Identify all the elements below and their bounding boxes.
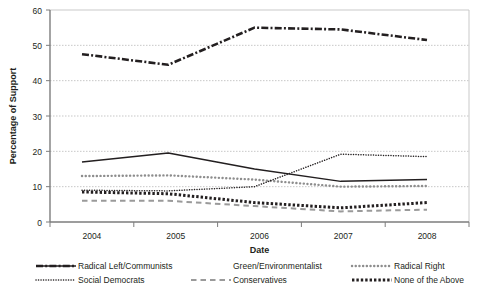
- y-tick-label-30: 30: [33, 112, 43, 122]
- line-chart: 60 50 40 30 20 10 0 2004 2005 2006 2007 …: [0, 0, 479, 290]
- y-tick-label-10: 10: [33, 182, 43, 192]
- legend-item-conservatives: Conservatives: [191, 275, 287, 285]
- x-tick-label-2004: 2004: [82, 231, 101, 241]
- x-tick-label-2005: 2005: [166, 231, 185, 241]
- x-tick-label-2006: 2006: [250, 231, 269, 241]
- x-tick-label-2007: 2007: [334, 231, 353, 241]
- legend-label-radical-left: Radical Left/Communists: [78, 261, 172, 271]
- x-tick-label-2008: 2008: [418, 231, 437, 241]
- y-tick-label-40: 40: [33, 76, 43, 86]
- legend-label-radical-right: Radical Right: [394, 261, 445, 271]
- legend-label-social-democrats: Social Democrats: [78, 275, 145, 285]
- legend-label-green: Green/Environmentalist: [233, 261, 322, 271]
- chart-container: 60 50 40 30 20 10 0 2004 2005 2006 2007 …: [0, 0, 479, 290]
- x-axis-title: Date: [250, 245, 270, 255]
- legend-item-none-above: None of the Above: [352, 275, 464, 285]
- legend-item-social-democrats: Social Democrats: [36, 275, 145, 285]
- x-axis-ticks: [50, 222, 469, 227]
- y-tick-label-60: 60: [33, 6, 43, 16]
- y-tick-label-0: 0: [37, 218, 42, 228]
- y-axis-title: Percentage of Support: [8, 68, 18, 165]
- legend-label-none-above: None of the Above: [394, 275, 464, 285]
- y-tick-label-20: 20: [33, 147, 43, 157]
- y-tick-label-50: 50: [33, 41, 43, 51]
- legend-label-conservatives: Conservatives: [233, 275, 287, 285]
- plot-area-background: [50, 10, 469, 222]
- legend-item-radical-left: Radical Left/Communists: [36, 261, 172, 271]
- legend-item-radical-right: Radical Right: [352, 261, 445, 271]
- chart-legend: Radical Left/Communists Social Democrats…: [36, 261, 464, 285]
